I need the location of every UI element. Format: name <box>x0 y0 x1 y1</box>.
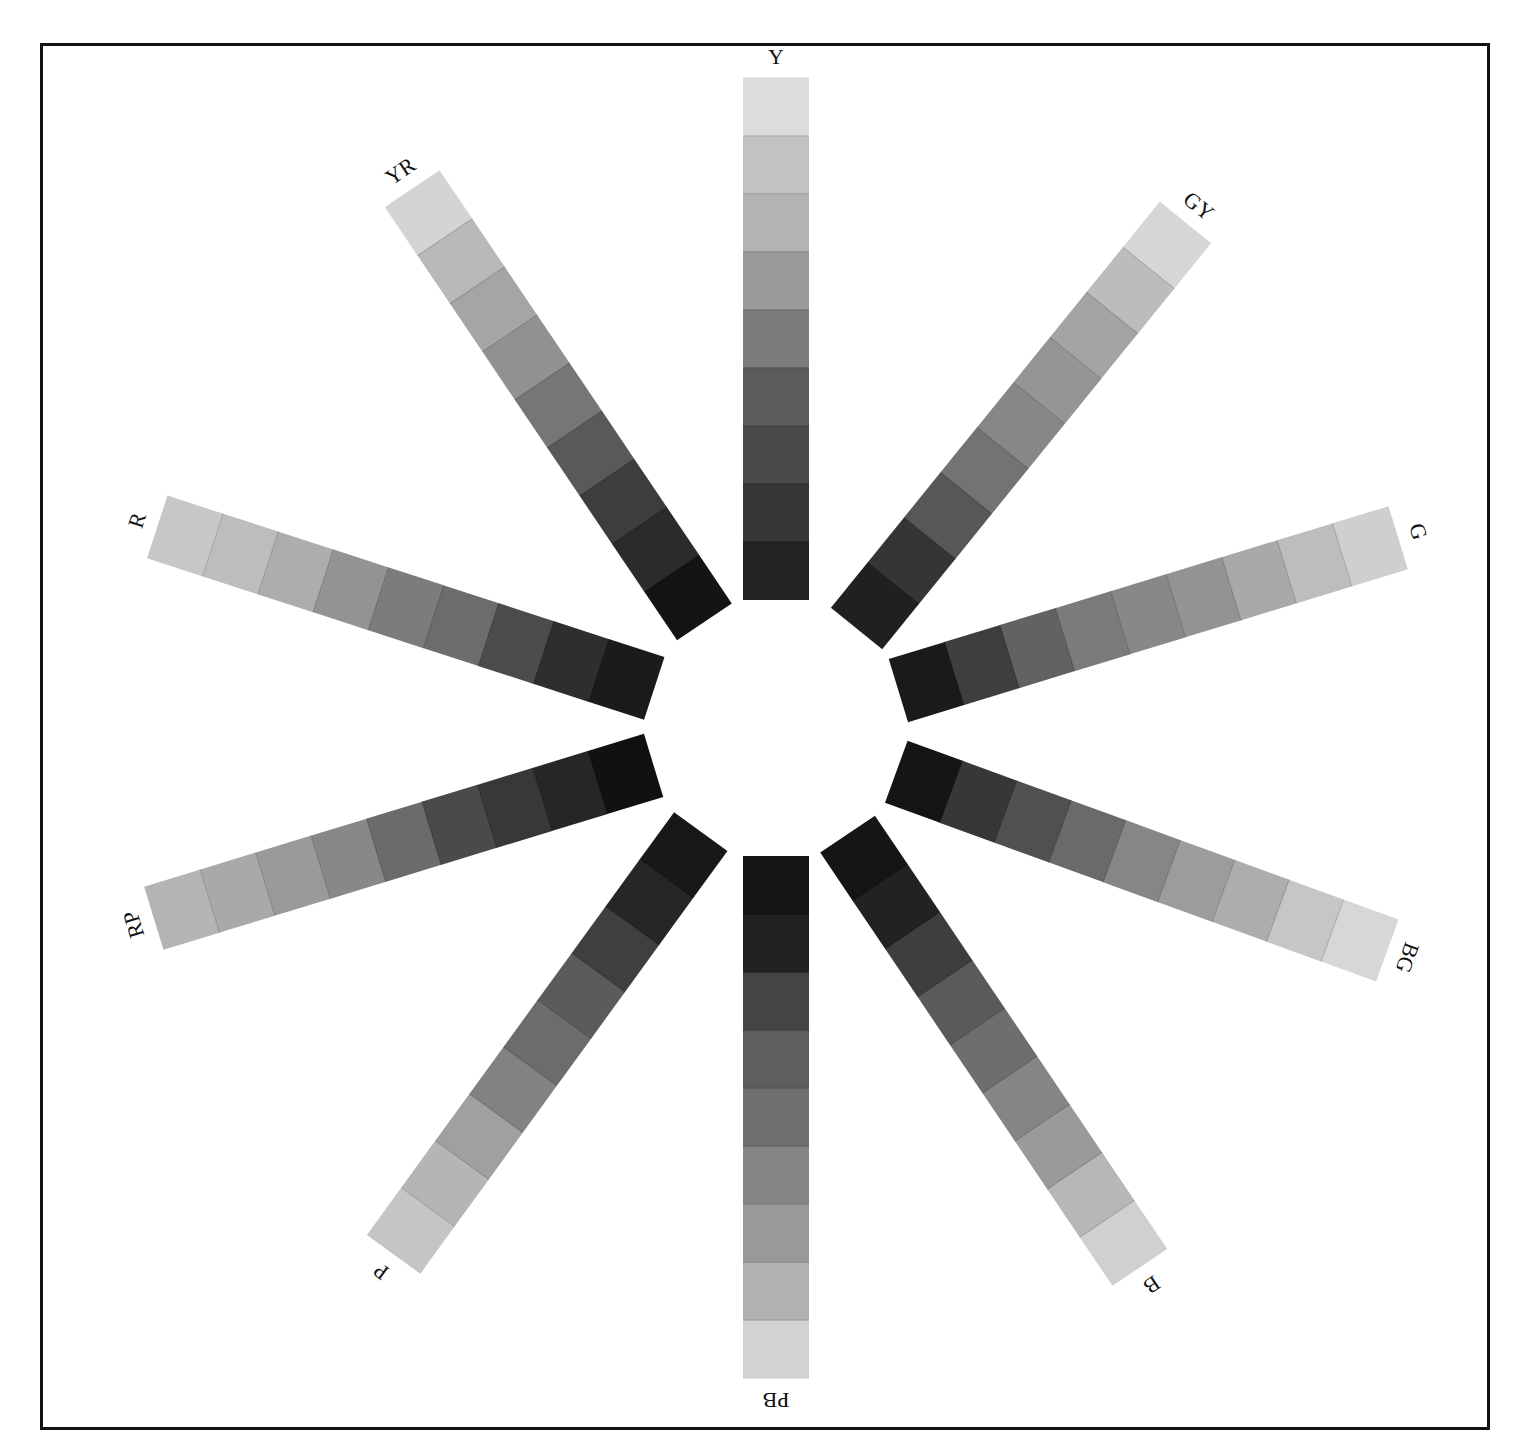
value-chip <box>743 1320 809 1379</box>
hue-label-gy: GY <box>1179 186 1220 225</box>
value-chip <box>743 856 809 915</box>
value-chip <box>743 1262 809 1321</box>
value-chip <box>743 1088 809 1147</box>
hue-label-rp: RP <box>118 908 150 941</box>
hue-label-y: Y <box>768 44 784 69</box>
value-strip-r <box>147 496 664 720</box>
value-chip <box>743 972 809 1031</box>
value-chip <box>743 541 809 600</box>
value-strip-yr <box>385 170 732 640</box>
hue-wheel: YGYGBGBPBPRPRYR <box>0 0 1525 1450</box>
value-chip <box>743 1030 809 1089</box>
value-strip-p <box>367 812 728 1274</box>
hue-label-g: G <box>1404 520 1433 543</box>
hue-label-yr: YR <box>381 152 421 190</box>
hue-label-r: R <box>123 509 151 531</box>
hue-label-pb: PB <box>763 1388 790 1413</box>
hue-label-bg: BG <box>1390 939 1424 976</box>
value-chip <box>743 193 809 252</box>
value-chip <box>743 367 809 426</box>
value-chip <box>743 914 809 973</box>
hue-label-b: B <box>1139 1271 1165 1300</box>
value-chip <box>743 1204 809 1263</box>
value-chip <box>743 309 809 368</box>
value-strip-pb <box>743 856 809 1379</box>
value-strips <box>144 77 1408 1378</box>
value-chip <box>743 77 809 136</box>
value-chip <box>743 1146 809 1205</box>
hue-label-p: P <box>369 1258 394 1285</box>
value-chip <box>743 251 809 310</box>
value-chip <box>743 483 809 542</box>
value-strip-y <box>743 77 809 600</box>
value-chip <box>743 425 809 484</box>
value-chip <box>743 135 809 194</box>
value-strip-rp <box>144 734 663 950</box>
